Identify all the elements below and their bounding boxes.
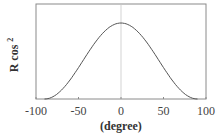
y-axis-label-superscript: 2 — [6, 38, 15, 42]
chart: -100-50050100 (degree) R cos 2 — [0, 0, 222, 138]
x-tick-label: 100 — [197, 104, 215, 118]
x-tick-label: 50 — [158, 104, 170, 118]
x-tick-label: 0 — [118, 104, 124, 118]
svg-text:R cos 2: R cos 2 — [6, 38, 21, 73]
y-axis-label: R cos 2 — [6, 38, 21, 73]
x-tick-label: -50 — [71, 104, 87, 118]
x-tick-label: -100 — [25, 104, 47, 118]
plot-area — [36, 4, 206, 99]
x-axis-tick-labels: -100-50050100 — [25, 104, 215, 118]
x-axis-label: (degree) — [100, 119, 142, 133]
y-axis-label-text: R cos — [7, 44, 21, 72]
